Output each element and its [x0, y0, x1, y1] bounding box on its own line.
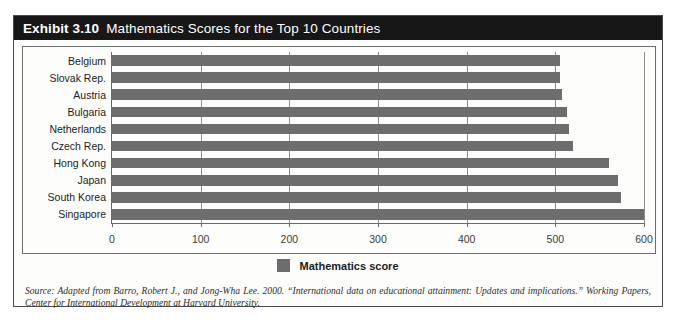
x-axis-tick [644, 223, 645, 227]
x-axis-tick-label: 200 [281, 233, 299, 245]
chart-frame: 0100200300400500600BelgiumSlovak Rep.Aus… [22, 46, 656, 254]
bar-row: Bulgaria [112, 107, 644, 118]
bar [112, 209, 644, 220]
bar [112, 141, 573, 152]
bar [112, 72, 560, 83]
plot-area: 0100200300400500600BelgiumSlovak Rep.Aus… [111, 52, 644, 224]
bar [112, 192, 621, 203]
bar-row: Slovak Rep. [112, 72, 644, 83]
bar [112, 55, 560, 66]
bar-row: Czech Rep. [112, 141, 644, 152]
bar-row: Singapore [112, 209, 644, 220]
x-axis-tick [201, 223, 202, 227]
gridline [644, 52, 645, 223]
category-label: South Korea [48, 192, 106, 203]
category-label: Singapore [58, 209, 106, 220]
legend-swatch-mathematics-score [277, 259, 290, 272]
bar-row: South Korea [112, 192, 644, 203]
category-label: Belgium [68, 55, 106, 66]
exhibit-title: Mathematics Scores for the Top 10 Countr… [106, 21, 380, 36]
x-axis-tick [378, 223, 379, 227]
x-axis-tick-label: 400 [458, 233, 476, 245]
x-axis-tick [467, 223, 468, 227]
category-label: Bulgaria [67, 107, 106, 118]
bar [112, 107, 567, 118]
category-label: Netherlands [49, 124, 106, 135]
x-axis-tick-label: 600 [635, 233, 653, 245]
exhibit-container: Exhibit 3.10 Mathematics Scores for the … [13, 15, 663, 307]
bar-row: Netherlands [112, 124, 644, 135]
source-note: Source: Adapted from Barro, Robert J., a… [25, 285, 651, 310]
x-axis-tick-label: 300 [369, 233, 387, 245]
x-axis-tick [112, 223, 113, 227]
legend-label-mathematics-score: Mathematics score [299, 260, 398, 272]
bar-row: Japan [112, 175, 644, 186]
bar-row: Belgium [112, 55, 644, 66]
chart-legend: Mathematics score [14, 259, 662, 272]
exhibit-title-bar: Exhibit 3.10 Mathematics Scores for the … [14, 16, 662, 40]
bar [112, 175, 618, 186]
bar-row: Hong Kong [112, 158, 644, 169]
x-axis-tick-label: 0 [109, 233, 115, 245]
category-label: Slovak Rep. [49, 72, 106, 83]
x-axis-tick-label: 100 [192, 233, 210, 245]
category-label: Japan [77, 175, 106, 186]
x-axis-tick-label: 500 [547, 233, 565, 245]
bar [112, 124, 569, 135]
x-axis-tick [289, 223, 290, 227]
category-label: Czech Rep. [51, 141, 106, 152]
bar [112, 158, 609, 169]
x-axis-tick [555, 223, 556, 227]
bar-row: Austria [112, 89, 644, 100]
category-label: Austria [73, 89, 106, 100]
bar [112, 89, 562, 100]
exhibit-number: Exhibit 3.10 [23, 21, 99, 36]
category-label: Hong Kong [53, 158, 106, 169]
